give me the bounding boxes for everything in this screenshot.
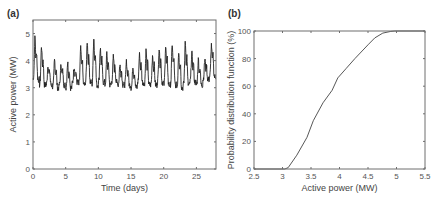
panel-b-label: (b)	[228, 8, 241, 19]
x-tick-label: 20	[159, 172, 168, 181]
x-tick-label: 10	[94, 172, 103, 181]
x-tick-label: 5	[63, 172, 68, 181]
x-tick-label: 5.5	[419, 172, 431, 181]
y-tick-label: 2	[26, 111, 31, 120]
panel-a-y-ticks: 012345	[26, 30, 216, 174]
panel-a-y-axis-label: Active power (MW)	[8, 56, 18, 132]
panel-a-time-series: (a) 0510152025 012345 Time (days) Active…	[7, 8, 216, 193]
x-tick-label: 0	[31, 172, 36, 181]
y-tick-label: 100	[238, 27, 252, 36]
y-tick-label: 40	[242, 110, 251, 119]
x-tick-label: 3.5	[305, 172, 317, 181]
y-tick-label: 5	[26, 30, 31, 39]
x-tick-label: 5	[394, 172, 399, 181]
panel-b-y-axis-label: Probability distribution function (%)	[226, 31, 236, 170]
y-tick-label: 60	[242, 82, 251, 91]
y-tick-label: 4	[26, 57, 31, 66]
panel-a-x-axis-label: Time (days)	[101, 183, 148, 193]
y-tick-label: 0	[26, 165, 31, 174]
panel-a-axes-frame	[33, 20, 216, 169]
active-power-line	[33, 36, 216, 91]
panel-b-cdf: (b) 2.533.544.555.5 020406080100 Active …	[226, 8, 431, 193]
y-tick-label: 80	[242, 55, 251, 64]
figure: (a) 0510152025 012345 Time (days) Active…	[0, 0, 441, 199]
x-tick-label: 3	[280, 172, 285, 181]
x-tick-label: 4	[337, 172, 342, 181]
cdf-line	[254, 31, 425, 169]
panel-b-y-ticks: 020406080100	[238, 27, 425, 174]
panel-b-x-ticks: 2.533.544.555.5	[248, 31, 431, 181]
y-tick-label: 20	[242, 137, 251, 146]
y-tick-label: 0	[247, 165, 252, 174]
active-power-series	[33, 36, 216, 91]
panel-b-axes-frame	[254, 31, 425, 169]
panel-a-x-ticks: 0510152025	[31, 20, 202, 181]
panel-a-label: (a)	[7, 8, 19, 19]
x-tick-label: 15	[127, 172, 136, 181]
panel-b-x-axis-label: Active power (MW)	[301, 183, 377, 193]
y-tick-label: 1	[26, 138, 31, 147]
cdf-series	[254, 31, 425, 169]
x-tick-label: 4.5	[362, 172, 374, 181]
x-tick-label: 25	[192, 172, 201, 181]
y-tick-label: 3	[26, 84, 31, 93]
